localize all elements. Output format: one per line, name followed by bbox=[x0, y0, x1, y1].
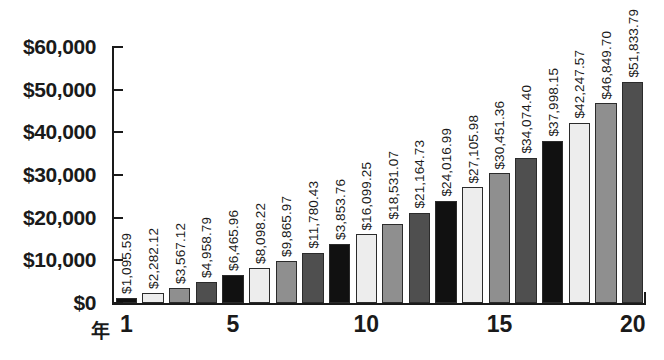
x-axis-tick-labels: 年 15101520 bbox=[0, 305, 664, 360]
bar-value-label: $18,531.07 bbox=[385, 151, 400, 220]
bar-group: $42,247.57 bbox=[569, 20, 590, 303]
bar-value-label: $6,465.96 bbox=[225, 210, 240, 271]
y-axis-tick-mark bbox=[112, 217, 123, 219]
bar[interactable] bbox=[595, 103, 616, 303]
bar[interactable] bbox=[382, 224, 403, 303]
bar-value-label: $16,099.25 bbox=[359, 162, 374, 231]
bar-value-label: $1,095.59 bbox=[119, 233, 134, 294]
bar-value-label: $9,865.97 bbox=[279, 196, 294, 257]
bar-value-label: $21,164.73 bbox=[412, 140, 427, 209]
bar[interactable] bbox=[435, 201, 456, 303]
bar-group: $3,853.76 bbox=[329, 20, 350, 303]
bar-value-label: $8,098.22 bbox=[252, 203, 267, 264]
bar-value-label: $3,567.12 bbox=[172, 223, 187, 284]
bar-value-label: $2,282.12 bbox=[145, 228, 160, 289]
bar-group: $9,865.97 bbox=[276, 20, 297, 303]
y-axis-tick-label: $20,000 bbox=[0, 206, 96, 230]
bar[interactable] bbox=[542, 141, 563, 303]
bar-value-label: $46,849.70 bbox=[599, 31, 614, 100]
x-axis-tick-label: 5 bbox=[227, 311, 240, 338]
chart-page: $0$10,000$20,000$30,000$40,000$50,000$60… bbox=[0, 0, 664, 360]
bar-value-label: $42,247.57 bbox=[572, 50, 587, 119]
bar-value-label: $24,016.99 bbox=[439, 128, 454, 197]
y-axis-tick-mark bbox=[112, 89, 123, 91]
bar-group: $51,833.79 bbox=[622, 20, 643, 303]
y-axis-tick-mark bbox=[112, 259, 123, 261]
bar-group: $11,780.43 bbox=[302, 20, 323, 303]
bar-group: $4,958.79 bbox=[196, 20, 217, 303]
bar[interactable] bbox=[622, 82, 643, 303]
bar-group: $2,282.12 bbox=[142, 20, 163, 303]
y-axis-tick-label: $40,000 bbox=[0, 120, 96, 144]
bar[interactable] bbox=[169, 288, 190, 303]
bar-group: $6,465.96 bbox=[222, 20, 243, 303]
bar-group: $16,099.25 bbox=[356, 20, 377, 303]
bar-value-label: $3,853.76 bbox=[332, 179, 347, 240]
bar[interactable] bbox=[489, 173, 510, 303]
bar-group: $24,016.99 bbox=[435, 20, 456, 303]
y-axis-tick-label: $10,000 bbox=[0, 248, 96, 272]
bar[interactable] bbox=[276, 261, 297, 303]
bar-value-label: $30,451.36 bbox=[492, 101, 507, 170]
bar-value-label: $11,780.43 bbox=[305, 181, 320, 249]
bar[interactable] bbox=[356, 234, 377, 303]
bar-group: $18,531.07 bbox=[382, 20, 403, 303]
bar[interactable] bbox=[329, 244, 350, 303]
x-axis-tick-label: 15 bbox=[487, 311, 513, 338]
x-axis-tick-label: 10 bbox=[353, 311, 379, 338]
bar[interactable] bbox=[196, 282, 217, 303]
x-axis-tick-label: 20 bbox=[620, 311, 646, 338]
bar-group: $37,998.15 bbox=[542, 20, 563, 303]
bar[interactable] bbox=[249, 268, 270, 303]
y-axis-tick-mark bbox=[112, 46, 123, 48]
y-axis-tick-label: $50,000 bbox=[0, 78, 96, 102]
bar-group: $8,098.22 bbox=[249, 20, 270, 303]
bar[interactable] bbox=[515, 158, 536, 303]
x-axis-unit-label: 年 bbox=[91, 316, 110, 343]
bar[interactable] bbox=[142, 293, 163, 303]
bar-value-label: $27,105.98 bbox=[465, 115, 480, 184]
bar[interactable] bbox=[302, 253, 323, 303]
bar-plot-area: $1,095.59$2,282.12$3,567.12$4,958.79$6,4… bbox=[113, 20, 646, 303]
y-axis-tick-mark bbox=[112, 131, 123, 133]
y-axis-tick-label: $60,000 bbox=[0, 35, 96, 59]
y-axis-tick-mark bbox=[112, 174, 123, 176]
y-axis-tick-label: $30,000 bbox=[0, 163, 96, 187]
bar-value-label: $34,074.40 bbox=[519, 85, 534, 154]
bar-group: $34,074.40 bbox=[515, 20, 536, 303]
bar-group: $3,567.12 bbox=[169, 20, 190, 303]
x-axis-tick-label: 1 bbox=[120, 311, 133, 338]
bar-value-label: $4,958.79 bbox=[199, 217, 214, 278]
bar-group: $21,164.73 bbox=[409, 20, 430, 303]
bar[interactable] bbox=[569, 123, 590, 303]
bar[interactable] bbox=[222, 275, 243, 303]
bar-group: $30,451.36 bbox=[489, 20, 510, 303]
bar-group: $27,105.98 bbox=[462, 20, 483, 303]
y-axis-tick-mark bbox=[112, 302, 123, 304]
bar[interactable] bbox=[462, 187, 483, 303]
bar-group: $46,849.70 bbox=[595, 20, 616, 303]
bar[interactable] bbox=[409, 213, 430, 303]
bar-value-label: $37,998.15 bbox=[545, 68, 560, 137]
bar-value-label: $51,833.79 bbox=[625, 9, 640, 78]
